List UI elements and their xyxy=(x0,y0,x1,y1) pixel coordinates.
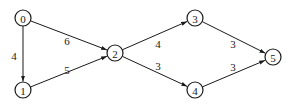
node-label: 1 xyxy=(20,85,26,97)
edge-weights-layer: 4654333 xyxy=(11,35,236,76)
edge-weight-label: 5 xyxy=(64,64,70,76)
edge-weight-label: 3 xyxy=(155,60,161,72)
edge-weight-label: 3 xyxy=(230,38,236,50)
node-label: 4 xyxy=(192,85,198,97)
node-label: 0 xyxy=(20,13,26,25)
edge-weight-label: 6 xyxy=(64,35,70,47)
edge-weight-label: 3 xyxy=(230,61,236,73)
node-3: 3 xyxy=(187,10,203,26)
node-0: 0 xyxy=(15,10,31,26)
graph-canvas: 4654333 012345 xyxy=(0,0,292,108)
node-5: 5 xyxy=(265,49,281,65)
node-label: 3 xyxy=(192,13,198,25)
node-label: 5 xyxy=(270,52,276,64)
node-1: 1 xyxy=(15,82,31,98)
node-4: 4 xyxy=(187,82,203,98)
node-2: 2 xyxy=(107,45,123,61)
edge-weight-label: 4 xyxy=(11,50,17,62)
edges-layer xyxy=(23,21,265,87)
nodes-layer: 012345 xyxy=(15,10,281,98)
edge-weight-label: 4 xyxy=(155,38,161,50)
node-label: 2 xyxy=(112,48,118,60)
